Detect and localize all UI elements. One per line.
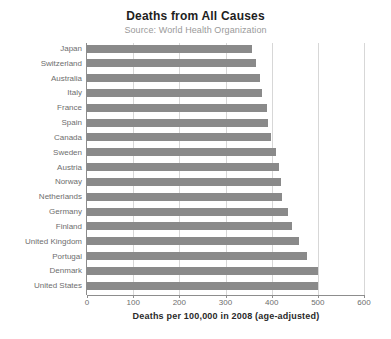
bar: [87, 59, 256, 67]
bar: [87, 148, 276, 156]
bar-row: Norway: [0, 176, 391, 191]
category-label: Canada: [0, 132, 82, 143]
x-tick-mark: [318, 295, 319, 298]
x-tick-mark: [364, 295, 365, 298]
bar-row: Sweden: [0, 147, 391, 162]
x-tick-label: 400: [265, 297, 278, 308]
x-axis-ticks: 0100200300400500600: [0, 297, 391, 311]
bar: [87, 119, 268, 127]
bar-row: Germany: [0, 206, 391, 221]
category-label: Spain: [0, 117, 82, 128]
bar-chart: Deaths from All Causes Source: World Hea…: [0, 0, 391, 339]
x-tick-label: 300: [219, 297, 232, 308]
bar-row: Switzerland: [0, 58, 391, 73]
x-tick-label: 500: [311, 297, 324, 308]
bar-row: Spain: [0, 117, 391, 132]
bar: [87, 282, 318, 290]
category-label: Australia: [0, 73, 82, 84]
bar-row: Australia: [0, 73, 391, 88]
bar: [87, 208, 288, 216]
x-tick-mark: [133, 295, 134, 298]
x-tick-label: 200: [173, 297, 186, 308]
bar-row: Austria: [0, 162, 391, 177]
category-label: United Kingdom: [0, 236, 82, 247]
bar-row: Canada: [0, 132, 391, 147]
category-label: Sweden: [0, 147, 82, 158]
bar: [87, 163, 279, 171]
bar-row: Netherlands: [0, 191, 391, 206]
bar: [87, 74, 260, 82]
bar: [87, 267, 318, 275]
bar-row: Japan: [0, 43, 391, 58]
bar-row: Finland: [0, 221, 391, 236]
bar: [87, 237, 299, 245]
category-label: Finland: [0, 221, 82, 232]
chart-header: Deaths from All Causes Source: World Hea…: [0, 9, 391, 36]
category-label: Portugal: [0, 251, 82, 262]
bar: [87, 104, 267, 112]
category-label: Switzerland: [0, 58, 82, 69]
bar-row: Italy: [0, 87, 391, 102]
bar-row: France: [0, 102, 391, 117]
x-tick-label: 100: [126, 297, 139, 308]
chart-title: Deaths from All Causes: [0, 9, 391, 23]
x-tick-mark: [87, 295, 88, 298]
bar: [87, 252, 307, 260]
category-label: France: [0, 102, 82, 113]
bar-row: United Kingdom: [0, 236, 391, 251]
x-tick-label: 0: [85, 297, 89, 308]
bar: [87, 89, 262, 97]
category-label: Denmark: [0, 265, 82, 276]
bar-rows: JapanSwitzerlandAustraliaItalyFranceSpai…: [0, 43, 391, 295]
x-axis-label: Deaths per 100,000 in 2008 (age-adjusted…: [87, 311, 365, 321]
category-label: United States: [0, 280, 82, 291]
category-label: Netherlands: [0, 191, 82, 202]
category-label: Austria: [0, 162, 82, 173]
bar: [87, 222, 292, 230]
category-label: Italy: [0, 87, 82, 98]
x-tick-mark: [226, 295, 227, 298]
bar-row: Portugal: [0, 251, 391, 266]
x-tick-mark: [272, 295, 273, 298]
category-label: Germany: [0, 206, 82, 217]
bar-row: United States: [0, 280, 391, 295]
bar: [87, 45, 252, 53]
x-tick-mark: [179, 295, 180, 298]
bar: [87, 193, 282, 201]
x-tick-label: 600: [357, 297, 370, 308]
bar: [87, 133, 271, 141]
bar: [87, 178, 281, 186]
bar-row: Denmark: [0, 265, 391, 280]
category-label: Norway: [0, 176, 82, 187]
category-label: Japan: [0, 43, 82, 54]
chart-subtitle: Source: World Health Organization: [0, 24, 391, 36]
